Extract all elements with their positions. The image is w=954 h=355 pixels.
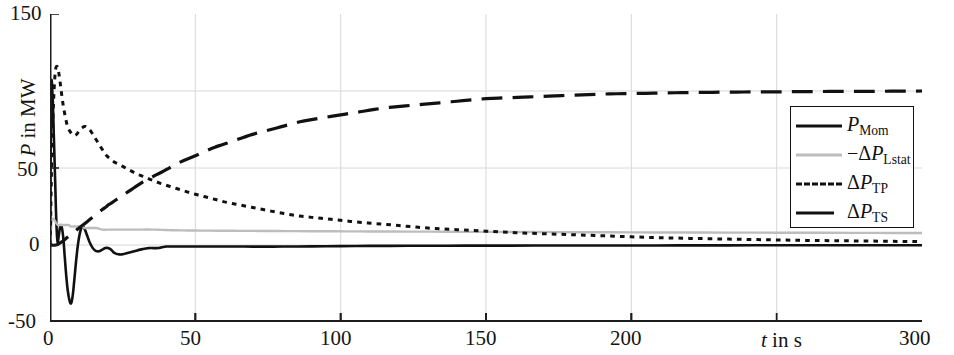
legend-item-p-mom: PMom	[791, 111, 913, 140]
chart-figure: 150 50 0 -50 P in MW 0 50 100 150 200 30…	[0, 0, 954, 355]
y-tick-label-neg50: -50	[8, 311, 36, 332]
x-tick-label-0: 0	[43, 328, 54, 349]
y-tick-label-150: 150	[10, 3, 42, 24]
x-tick-label-200: 200	[610, 328, 642, 349]
dashed-black-line-icon	[796, 206, 842, 220]
y-axis-title: P in MW	[16, 74, 41, 162]
x-tick-label-100: 100	[320, 328, 352, 349]
y-tick-label-0: 0	[29, 234, 40, 255]
legend-label-dp-ts: ΔPTS	[842, 201, 888, 224]
x-tick-label-300: 300	[899, 328, 931, 349]
solid-gray-line-icon	[796, 148, 842, 162]
legend-label-dp-tp: ΔPTP	[842, 172, 888, 195]
legend-box: PMom −ΔPLstat ΔPTP ΔPTS	[790, 106, 914, 228]
legend-item-dp-ts: ΔPTS	[791, 198, 913, 227]
dotted-black-line-icon	[796, 177, 842, 191]
x-tick-label-150: 150	[465, 328, 497, 349]
x-tick-label-50: 50	[180, 328, 201, 349]
x-axis-title: t in s	[761, 328, 802, 353]
y-tick-label-50: 50	[17, 159, 38, 180]
legend-label-dp-lstat: −ΔPLstat	[842, 143, 911, 166]
solid-black-line-icon	[796, 119, 842, 133]
legend-label-p-mom: PMom	[842, 114, 889, 137]
legend-item-dp-tp: ΔPTP	[791, 169, 913, 198]
legend-item-dp-lstat: −ΔPLstat	[791, 140, 913, 169]
